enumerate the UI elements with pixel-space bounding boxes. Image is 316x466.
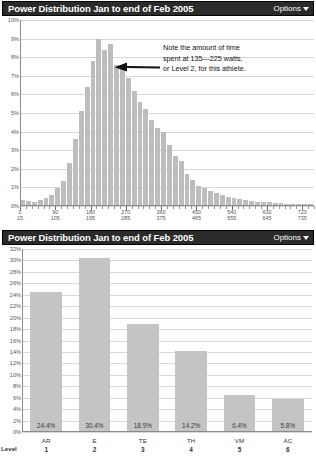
histogram-bar (120, 67, 125, 207)
bar-value-label: 5.8% (272, 422, 304, 429)
histogram-bar (126, 78, 131, 206)
y-axis-tick-label: 2% (13, 418, 21, 424)
histogram-bar (196, 186, 201, 206)
histogram-bar (149, 120, 154, 206)
bottom-x-axis (22, 431, 312, 432)
y-axis-tick-label: 10% (10, 372, 21, 378)
histogram-bar (102, 50, 107, 206)
x-axis-tick-label: 450465 (192, 209, 201, 221)
level-axis-label: Level (1, 445, 17, 452)
histogram-bar (208, 191, 213, 206)
y-axis-tick-label: 12% (10, 360, 21, 366)
bar-value-label: 30.4% (79, 422, 111, 429)
bottom-panel-options-button[interactable]: Options (273, 233, 309, 242)
bar-column: 6.4% (215, 249, 263, 432)
x-axis-category-vm: VM5 (215, 436, 263, 460)
bar-column: 14.2% (167, 249, 215, 432)
y-axis-tick-label: 8% (11, 54, 19, 60)
bar-th: 14.2% (175, 351, 207, 432)
top-y-axis-labels: 0%1%2%3%4%5%6%7%8%9%10% (0, 20, 20, 206)
histogram-bar (67, 163, 72, 206)
y-axis-tick-label: 32% (10, 246, 21, 252)
histogram-bar (173, 156, 178, 206)
top-panel-options-button[interactable]: Options (273, 4, 309, 13)
bar-column: 18.9% (119, 249, 167, 432)
chevron-down-icon (303, 7, 309, 11)
x-axis-tick-label: 270285 (121, 209, 130, 221)
y-axis-tick-label: 24% (10, 292, 21, 298)
bar-vm: 6.4% (224, 395, 256, 432)
annotation-line-2: spent at 135—225 watts, (163, 54, 246, 65)
y-axis-tick-label: 18% (10, 326, 21, 332)
x-axis-category-e: E2 (70, 436, 118, 460)
bar-ar: 24.4% (30, 292, 62, 432)
category-level: 5 (215, 445, 263, 454)
x-axis-category-te: TE3 (119, 436, 167, 460)
x-axis-tick-label: 90105 (51, 209, 60, 221)
y-axis-tick-label: 6% (11, 91, 19, 97)
x-axis-tick (314, 206, 315, 209)
top-options-label: Options (273, 4, 301, 13)
y-axis-tick-label: 0% (13, 429, 21, 435)
bottom-panel-title: Power Distribution Jan to end of Feb 200… (8, 232, 193, 243)
x-axis-tick-label: 180195 (86, 209, 95, 221)
y-axis-tick-label: 4% (13, 406, 21, 412)
category-code: E (92, 437, 96, 444)
category-level: 6 (264, 445, 312, 454)
bar-column: 24.4% (22, 249, 70, 432)
histogram-bar (79, 111, 84, 206)
histogram-bar (202, 188, 207, 206)
category-code: AC (284, 437, 293, 444)
y-axis-tick-label: 8% (13, 383, 21, 389)
category-level: 4 (167, 445, 215, 454)
y-axis-tick-label: 26% (10, 280, 21, 286)
bottom-y-axis-labels: 0%2%4%6%8%10%12%14%16%18%20%22%24%26%28%… (0, 249, 22, 432)
histogram-bar (161, 132, 166, 206)
bottom-y-axis (22, 249, 23, 432)
bar-value-label: 14.2% (175, 422, 207, 429)
x-axis-tick-label: 015 (17, 209, 23, 221)
bar-te: 18.9% (127, 324, 159, 432)
histogram-bar (55, 188, 60, 206)
category-level: 1 (22, 445, 70, 454)
bottom-panel-titlebar: Power Distribution Jan to end of Feb 200… (2, 230, 314, 245)
y-axis-tick-label: 6% (13, 395, 21, 401)
category-code: TE (139, 437, 147, 444)
category-level: 2 (70, 445, 118, 454)
bar-column: 30.4% (70, 249, 118, 432)
bottom-chart-panel: Power Distribution Jan to end of Feb 200… (0, 230, 316, 466)
top-chart-panel: Power Distribution Jan to end of Feb 200… (0, 1, 316, 229)
y-axis-tick-label: 20% (10, 315, 21, 321)
y-axis-tick-label: 9% (11, 36, 19, 42)
annotation-line-3: or Level 2, for this athlete. (163, 64, 246, 75)
y-axis-tick-label: 10% (8, 17, 19, 23)
histogram-bar (85, 87, 90, 206)
gridline (22, 432, 312, 433)
histogram-bar (190, 180, 195, 206)
x-axis-category-th: TH4 (167, 436, 215, 460)
bottom-plot-area: 24.4%30.4%18.9%14.2%6.4%5.8% (22, 249, 312, 432)
bottom-bar-series: 24.4%30.4%18.9%14.2%6.4%5.8% (22, 249, 312, 432)
y-axis-tick-label: 5% (11, 110, 19, 116)
x-axis-category-ac: AC6 (264, 436, 312, 460)
y-axis-tick-label: 7% (11, 73, 19, 79)
histogram-bar (185, 174, 190, 206)
histogram-bar (96, 39, 101, 206)
y-axis-tick-label: 16% (10, 338, 21, 344)
y-axis-tick-label: 2% (11, 166, 19, 172)
bar-ac: 5.8% (272, 399, 304, 432)
histogram-bar (155, 128, 160, 206)
top-panel-title: Power Distribution Jan to end of Feb 200… (8, 3, 193, 14)
histogram-bar (61, 181, 66, 206)
histogram-bar (179, 161, 184, 206)
bar-value-label: 6.4% (224, 422, 256, 429)
x-axis-tick-label: 540555 (227, 209, 236, 221)
bar-value-label: 24.4% (30, 422, 62, 429)
chevron-down-icon (303, 236, 309, 240)
top-x-axis-labels: 0159010518019527028536037545046554055563… (20, 209, 314, 227)
category-code: TH (187, 437, 195, 444)
category-code: VM (235, 437, 244, 444)
bar-column: 5.8% (264, 249, 312, 432)
left-arrow-icon (113, 61, 161, 73)
y-axis-tick-label: 28% (10, 269, 21, 275)
